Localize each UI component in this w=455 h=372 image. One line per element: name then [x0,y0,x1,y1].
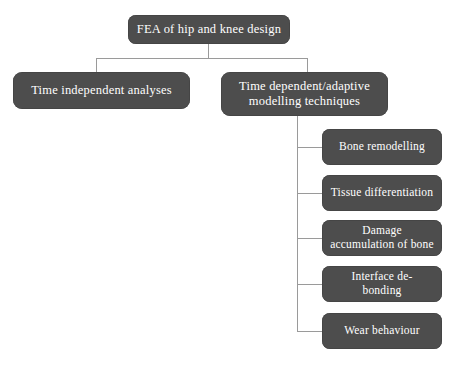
node-time-independent-analyses-label: Time independent analyses [31,83,172,98]
connector-root-stem [208,44,209,59]
node-wear-behaviour-label: Wear behaviour [344,324,420,338]
connector-stub-interface-debonding [297,284,323,285]
node-wear-behaviour: Wear behaviour [322,313,442,349]
node-time-independent-analyses: Time independent analyses [13,72,190,109]
connector-stub-bone-remodelling [297,147,323,148]
node-damage-accumulation-of-bone-label: Damage accumulation of bone [330,224,434,251]
connector-stub-damage-accumulation [297,238,323,239]
node-bone-remodelling: Bone remodelling [322,129,442,165]
node-bone-remodelling-label: Bone remodelling [339,140,425,154]
node-damage-accumulation-of-bone: Damage accumulation of bone [322,220,442,256]
connector-split-bar [96,58,308,59]
connector-to-time-dependent [307,58,308,73]
connector-child-spine [297,116,298,332]
connector-stub-tissue-differentiation [297,193,323,194]
node-root-fea: FEA of hip and knee design [128,15,290,44]
node-time-dependent-adaptive-modelling: Time dependent/adaptive modelling techni… [221,72,388,116]
connector-stub-wear-behaviour [297,331,323,332]
node-tissue-differentiation-label: Tissue differentiation [331,186,433,200]
node-interface-debonding-label: Interface de- bonding [351,270,412,297]
node-root-label: FEA of hip and knee design [137,22,281,37]
node-time-dependent-adaptive-modelling-label: Time dependent/adaptive modelling techni… [239,79,370,109]
diagram-canvas: FEA of hip and knee design Time independ… [0,0,455,372]
node-interface-debonding: Interface de- bonding [322,266,442,302]
connector-to-time-independent [96,58,97,73]
node-tissue-differentiation: Tissue differentiation [322,175,442,211]
